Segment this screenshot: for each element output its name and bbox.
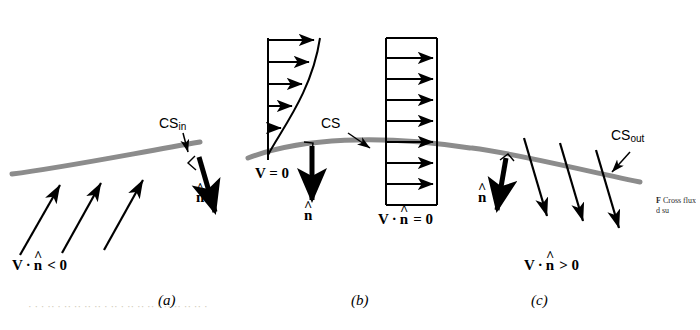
right-angle-mark-a [188, 156, 196, 170]
velocity-arrow-c-1 [524, 138, 547, 216]
flux-label-b: V·^n= 0 [378, 212, 433, 227]
velocity-arrow-c-2 [560, 143, 583, 221]
flux-label-c: V·^n> 0 [524, 258, 579, 273]
cs-label-b: CS [321, 116, 340, 130]
cs-out-label: CSout [611, 128, 644, 144]
normal-label-b: ^n [304, 208, 312, 223]
control-surface-curve-c [472, 148, 640, 182]
normal-label-c: ^n [478, 190, 486, 205]
control-surface-curve-a [12, 142, 200, 174]
flux-label-a: V·^n< 0 [12, 258, 67, 273]
velocity-arrow-a-2 [62, 183, 101, 253]
profile-envelope-b-left [268, 38, 320, 155]
normal-label-a: ^n [196, 190, 204, 205]
v-zero-label-b: V = 0 [255, 166, 289, 181]
velocity-arrow-c-3 [596, 150, 619, 228]
figure-caption: F Cross flux d su [656, 196, 696, 256]
panel-a-graphics [12, 133, 215, 255]
cs-in-label: CSin [159, 116, 186, 132]
ghost-text-row: · · · ·· · ·· ·· ·· ·· · ·· · ·· ·· ·· ·… [28, 300, 588, 314]
figure-root: CSin ^n V·^n< 0 (a) CS V = 0 ^n V·^n= 0 … [0, 0, 700, 330]
velocity-arrow-a-1 [20, 185, 60, 255]
panel-c-graphics [472, 138, 640, 228]
figure-svg [0, 0, 700, 330]
velocity-arrow-a-3 [104, 180, 143, 250]
normal-vector-c [497, 158, 506, 210]
cs-leader-c [612, 152, 630, 172]
